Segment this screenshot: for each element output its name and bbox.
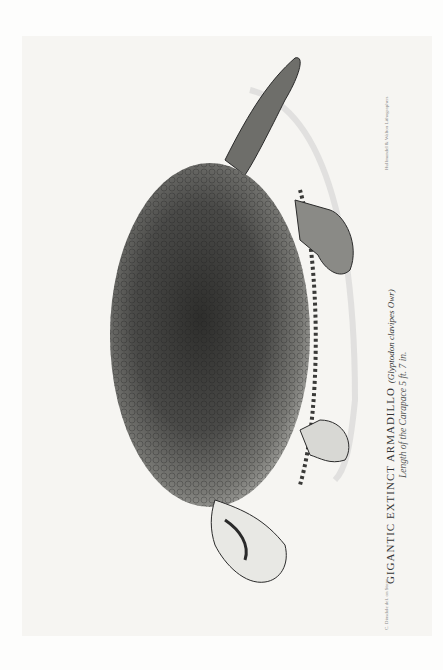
printer-credit: Hullmandel & Walton Lithographers (384, 96, 389, 170)
artist-credit: C. Dinsdale del. on Stone (384, 579, 389, 630)
plate-title: GIGANTIC EXTINCT ARMADILLO (Glyptodon cl… (384, 289, 396, 584)
plate-subtitle: Length of the Carapace 5 ft. 7 in. (398, 352, 408, 478)
glyptodon-illustration (0, 0, 443, 670)
